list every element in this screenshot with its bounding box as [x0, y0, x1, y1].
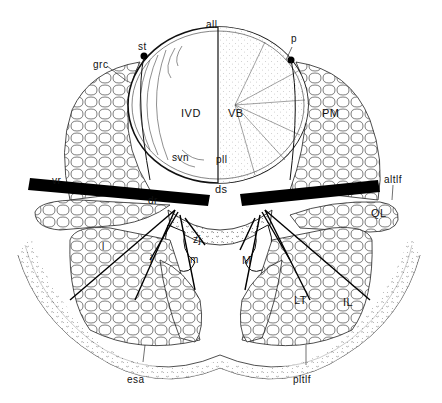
label-l: l	[102, 242, 105, 252]
label-st: st	[138, 42, 147, 52]
anatomical-diagram	[0, 0, 442, 403]
label-IL: IL	[343, 297, 353, 308]
label-VB: VB	[228, 108, 244, 119]
label-ds: ds	[215, 184, 228, 195]
label-vr: vr	[52, 176, 61, 186]
label-altlf: altlf	[384, 175, 402, 185]
label-pll: pll	[216, 155, 228, 165]
label-M: M	[242, 255, 252, 266]
label-zj: zj	[193, 235, 201, 245]
label-p: p	[291, 34, 297, 44]
label-grc: grc	[93, 60, 108, 70]
label-QL: QL	[371, 208, 387, 219]
label-all: all	[206, 20, 218, 30]
label-pltlf: pltlf	[293, 375, 311, 385]
vertebral-body-half	[218, 27, 308, 183]
label-IVD: IVD	[181, 108, 201, 119]
label-LT: LT	[294, 295, 307, 306]
label-esa: esa	[127, 375, 145, 385]
label-m: m	[190, 255, 199, 265]
label-svn: svn	[172, 153, 189, 163]
label-PM: PM	[322, 108, 340, 119]
label-dr: dr	[148, 196, 158, 206]
label-i: i	[150, 255, 153, 265]
